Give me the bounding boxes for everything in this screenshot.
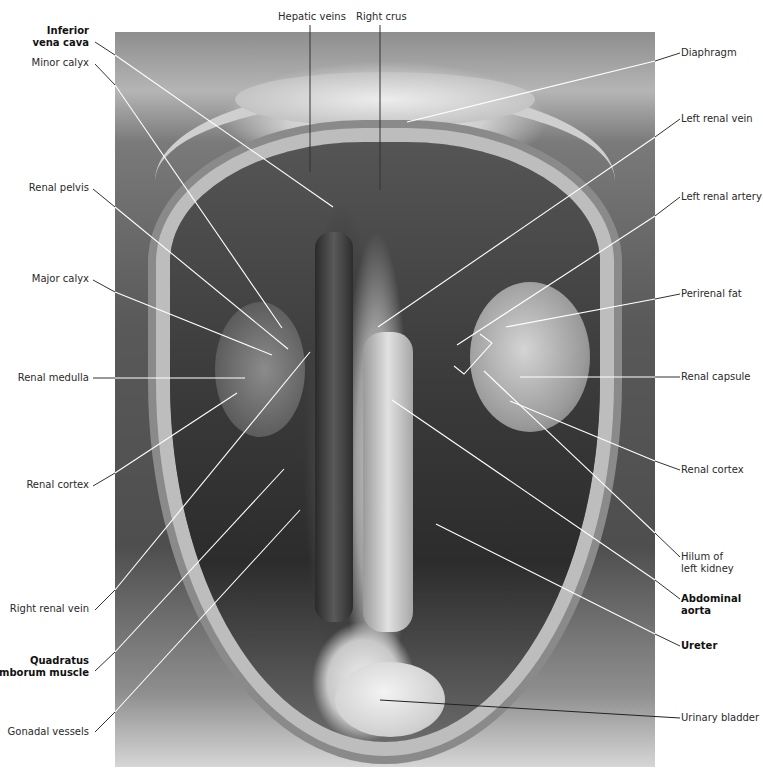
label-urinary-bladder: Urinary bladder — [681, 712, 759, 724]
right-kidney-region — [215, 302, 305, 437]
leader-major-calyx — [93, 280, 115, 292]
leader-renal-cortex-right — [93, 473, 115, 486]
label-renal-cortex-left: Renal cortex — [681, 464, 744, 476]
label-line: Inferior — [32, 25, 89, 37]
label-renal-medulla: Renal medulla — [18, 372, 89, 384]
label-diaphragm: Diaphragm — [681, 47, 737, 59]
label-right-renal-vein: Right renal vein — [10, 603, 89, 615]
label-line: aorta — [681, 605, 741, 617]
label-hepatic-veins: Hepatic veins — [278, 11, 346, 23]
label-major-calyx: Major calyx — [32, 273, 89, 285]
leader-perirenal-fat — [655, 294, 680, 299]
leader-left-renal-vein — [655, 119, 680, 137]
label-line: vena cava — [32, 37, 89, 49]
label-inferior-vena-cava: Inferior vena cava — [32, 25, 89, 49]
label-line: left kidney — [681, 563, 734, 575]
label-minor-calyx: Minor calyx — [32, 57, 89, 69]
label-left-renal-vein: Left renal vein — [681, 113, 753, 125]
abdominal-aorta-region — [363, 332, 413, 632]
leader-diaphragm — [655, 53, 680, 61]
leader-ivc — [95, 42, 115, 55]
label-renal-cortex-right: Renal cortex — [26, 479, 89, 491]
leader-hilum — [655, 533, 680, 557]
label-quadratus-lumborum: Quadratus lumborum muscle — [0, 655, 89, 679]
specimen-photograph — [115, 32, 655, 767]
label-line: lumborum muscle — [0, 667, 89, 679]
diaphragm-region — [235, 72, 535, 127]
inferior-vena-cava-region — [315, 232, 353, 622]
label-line: Quadratus — [0, 655, 89, 667]
leader-minor-calyx — [95, 64, 115, 85]
leader-quadratus — [95, 652, 115, 671]
label-hilum-left-kidney: Hilum of left kidney — [681, 551, 734, 575]
label-ureter: Ureter — [681, 640, 717, 652]
label-perirenal-fat: Perirenal fat — [681, 288, 742, 300]
label-gonadal-vessels: Gonadal vessels — [8, 726, 89, 738]
leader-abdominal-aorta — [655, 580, 680, 599]
label-line: Abdominal — [681, 593, 741, 605]
leader-ureter — [655, 634, 680, 646]
label-left-renal-artery: Left renal artery — [681, 191, 762, 203]
leader-gonadal — [95, 712, 115, 732]
leader-renal-cortex-left — [655, 461, 680, 470]
left-kidney-region — [470, 282, 590, 432]
label-renal-capsule: Renal capsule — [681, 371, 751, 383]
label-line: Hilum of — [681, 551, 734, 563]
label-renal-pelvis: Renal pelvis — [29, 182, 89, 194]
leader-renal-pelvis — [93, 189, 115, 207]
label-abdominal-aorta: Abdominal aorta — [681, 593, 741, 617]
leader-left-renal-artery — [655, 197, 680, 216]
label-right-crus: Right crus — [356, 11, 407, 23]
leader-right-renal-vein — [95, 590, 115, 610]
urinary-bladder-region — [335, 662, 445, 737]
